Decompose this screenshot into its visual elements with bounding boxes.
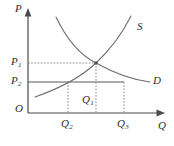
price-level-p1-label: P1 bbox=[11, 56, 21, 67]
supply-curve-label: S bbox=[137, 21, 143, 32]
price-level-p2-label: P2 bbox=[11, 75, 21, 86]
region-q1-label: Q1 bbox=[82, 94, 93, 105]
origin-label: O bbox=[15, 103, 23, 114]
quantity-q2-label: Q2 bbox=[61, 118, 72, 129]
region-q1-subscript: 1 bbox=[90, 99, 94, 107]
price-level-p2-base: P bbox=[11, 74, 18, 86]
price-level-p1-base: P bbox=[11, 55, 18, 67]
price-level-p2-subscript: 2 bbox=[18, 80, 22, 88]
x-axis-label: Q bbox=[158, 120, 166, 131]
quantity-q2-base: Q bbox=[61, 117, 69, 129]
quantity-q3-subscript: 3 bbox=[125, 123, 129, 131]
demand-curve bbox=[56, 17, 150, 82]
quantity-q3-label: Q3 bbox=[117, 118, 128, 129]
figure-canvas bbox=[0, 0, 174, 146]
x-axis-arrow-icon bbox=[157, 110, 166, 117]
equilibrium-point-marker bbox=[94, 61, 98, 65]
demand-curve-label: D bbox=[153, 75, 161, 86]
supply-demand-figure: P Q O P1 P2 Q2 Q3 Q1 S D bbox=[0, 0, 174, 146]
region-q1-base: Q bbox=[82, 93, 90, 105]
quantity-q2-subscript: 2 bbox=[69, 123, 73, 131]
supply-curve bbox=[35, 16, 131, 97]
quantity-q3-base: Q bbox=[117, 117, 125, 129]
y-axis-label: P bbox=[15, 3, 22, 14]
y-axis-arrow-icon bbox=[25, 8, 32, 17]
price-level-p1-subscript: 1 bbox=[18, 61, 22, 69]
